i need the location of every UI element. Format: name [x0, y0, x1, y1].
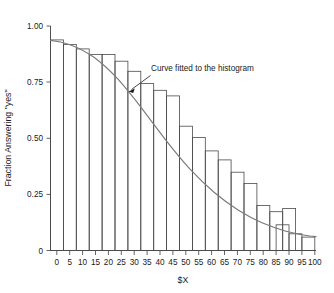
histogram-bar [63, 44, 76, 250]
histogram-bar [302, 237, 315, 250]
histogram-bar [154, 90, 167, 250]
x-tick-label-0: 0 [55, 258, 60, 267]
x-tick-label-35: 35 [143, 258, 153, 267]
histogram-bar [192, 137, 205, 250]
histogram-bar [89, 55, 102, 251]
y-axis-title: Fraction Answering "yes" [3, 89, 13, 186]
x-tick-label-90: 90 [284, 258, 294, 267]
histogram-figure: 1.00 0.75 0.50 0.25 0 [0, 0, 334, 293]
y-tick-label-2: 0.75 [27, 78, 43, 87]
x-tick-label-60: 60 [207, 258, 217, 267]
curve-annotation: Curve fitted to the histogram [129, 64, 254, 93]
annotation-label: Curve fitted to the histogram [151, 64, 254, 73]
histogram-bar [76, 49, 89, 251]
histogram-bar [115, 61, 128, 250]
histogram-bar [218, 160, 231, 251]
x-tick-label-75: 75 [246, 258, 256, 267]
x-tick-label-10: 10 [78, 258, 88, 267]
y-tick-label-1: 1.00 [27, 22, 43, 31]
x-tick-label-65: 65 [220, 258, 230, 267]
y-tick-label-5: 0 [38, 247, 43, 256]
x-tick-label-100: 100 [308, 258, 322, 267]
histogram-bar [167, 96, 180, 251]
histogram-bar [51, 40, 64, 251]
x-tick-label-20: 20 [104, 258, 114, 267]
x-tick-label-95: 95 [297, 258, 307, 267]
y-tick-label-4: 0.25 [27, 190, 43, 199]
x-tick-label-45: 45 [168, 258, 178, 267]
x-tick-label-80: 80 [259, 258, 269, 267]
y-axis: 1.00 0.75 0.50 0.25 0 [27, 22, 50, 256]
histogram-bar [231, 172, 244, 250]
x-tick-label-25: 25 [117, 258, 127, 267]
x-tick-label-85: 85 [272, 258, 282, 267]
x-tick-label-30: 30 [130, 258, 140, 267]
y-tick-label-3: 0.50 [27, 134, 43, 143]
x-axis-title: $X [178, 275, 189, 285]
x-tick-label-55: 55 [194, 258, 204, 267]
x-tick-label-40: 40 [155, 258, 165, 267]
histogram-bar [180, 126, 193, 250]
x-tick-label-5: 5 [67, 258, 72, 267]
x-tick-label-50: 50 [181, 258, 191, 267]
histogram-bar [205, 151, 218, 251]
histogram-bar [257, 206, 270, 251]
histogram-bar [102, 55, 115, 251]
x-tick-label-15: 15 [91, 258, 101, 267]
x-tick-label-70: 70 [233, 258, 243, 267]
chart-canvas: 1.00 0.75 0.50 0.25 0 [0, 0, 334, 293]
x-axis: 0 5 10 15 20 25 30 35 40 45 50 55 60 65 … [51, 251, 323, 268]
